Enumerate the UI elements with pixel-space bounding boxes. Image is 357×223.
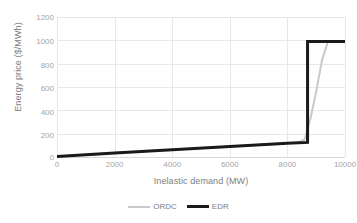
legend-item-ordc[interactable]: ORDC	[128, 202, 177, 211]
chart-container: Energy price ($/MWh) 1200 1000 800 600 4…	[0, 0, 357, 223]
x-axis-title: Inelastic demand (MW)	[57, 176, 345, 186]
x-tick-label: 2000	[90, 161, 140, 169]
legend-swatch-icon	[187, 205, 209, 208]
x-tick-label: 10000	[320, 161, 357, 169]
series-line-ordc	[57, 42, 345, 157]
x-tick-label: 4000	[147, 161, 197, 169]
x-tick-label: 8000	[262, 161, 312, 169]
plot-area	[0, 0, 357, 223]
series-line-edr	[57, 42, 345, 157]
legend-item-label: EDR	[212, 202, 229, 211]
x-tick-label: 6000	[205, 161, 255, 169]
legend-swatch-icon	[128, 206, 150, 208]
chart-legend: ORDC EDR	[0, 202, 357, 211]
legend-item-edr[interactable]: EDR	[187, 202, 229, 211]
x-tick-label: 0	[32, 161, 82, 169]
gridlines	[57, 17, 346, 158]
legend-item-label: ORDC	[153, 202, 177, 211]
